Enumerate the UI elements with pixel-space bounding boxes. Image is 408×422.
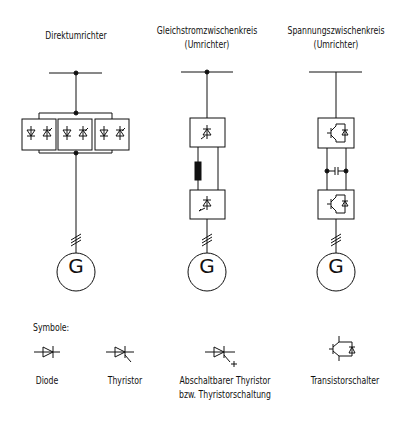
gto-thyristor-icon [205,346,237,367]
generator-label: G [321,260,351,273]
legend-label-transistor: Transistorschalter [304,374,386,387]
generator-label: G [61,260,91,273]
circuit-diagrams [0,0,408,422]
capacitor [327,167,346,175]
inductor [195,162,201,180]
legend-label-gto: Abschaltbarer Thyristor [172,374,279,387]
diode-icon [34,346,60,358]
legend-label-thyristor: Thyristor [100,374,149,387]
legend-label-gto-line2: bzw. Thyristorschaltung [172,388,279,401]
generator-label: G [192,260,222,273]
thyristor-icon [106,346,134,362]
legend-label-diode: Diode [27,374,68,387]
transistor-switch-icon [329,336,355,361]
legend-heading: Symbole: [33,321,69,334]
